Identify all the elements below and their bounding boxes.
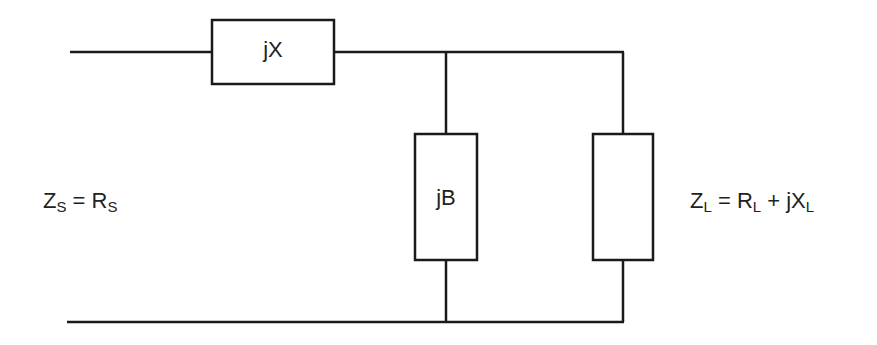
load-x: jX [786, 188, 806, 213]
load-r-sub: L [753, 198, 761, 215]
load-x-sub: L [806, 198, 814, 215]
load-plus: + [761, 188, 786, 213]
shunt-label-text: jB [436, 185, 456, 210]
circuit-schematic [0, 0, 877, 345]
source-eq: = [66, 188, 91, 213]
load-impedance-equation: ZL = RL + jXL [690, 188, 814, 215]
load-r: R [737, 188, 753, 213]
series-reactance-label: jX [263, 37, 283, 63]
source-r: R [92, 188, 108, 213]
source-z: Z [43, 188, 56, 213]
load-impedance-box [593, 134, 653, 260]
source-r-sub: S [107, 198, 117, 215]
series-label-text: jX [263, 37, 283, 62]
shunt-susceptance-label: jB [436, 185, 456, 211]
load-z: Z [690, 188, 703, 213]
load-eq: = [712, 188, 737, 213]
source-impedance-equation: ZS = RS [43, 188, 117, 215]
source-z-sub: S [56, 198, 66, 215]
load-z-sub: L [703, 198, 711, 215]
